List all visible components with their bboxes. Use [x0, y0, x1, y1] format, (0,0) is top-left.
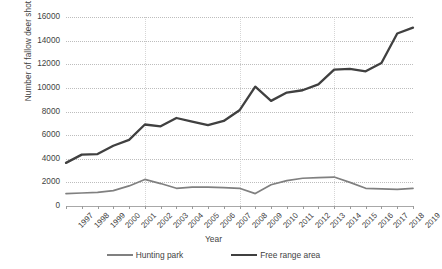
x-axis-tick-label: 2011: [297, 211, 316, 230]
x-axis-tick-mark: [66, 206, 67, 209]
x-axis-tick-mark: [82, 206, 83, 209]
x-axis-tick-label: 2018: [407, 211, 426, 230]
legend-label: Hunting park: [136, 250, 184, 260]
x-axis-tick-label: 2017: [392, 211, 411, 230]
y-axis-tick-label: 10000: [20, 84, 60, 92]
y-axis-tick-label: 16000: [20, 13, 60, 21]
x-axis-tick-label: 2005: [202, 211, 221, 230]
x-axis-tick-mark: [381, 206, 382, 209]
legend-line-icon: [231, 254, 257, 256]
chart-legend: Hunting park Free range area: [0, 248, 427, 262]
x-axis-tick-label: 2001: [139, 211, 158, 230]
y-axis-tick-labels: 1600014000120001000080006000400020000: [20, 0, 60, 269]
legend-item-hunting-park[interactable]: Hunting park: [107, 250, 184, 260]
legend-line-icon: [107, 254, 133, 256]
x-axis-tick-mark: [334, 206, 335, 209]
x-axis-tick-mark: [98, 206, 99, 209]
x-axis-tick-label: 2012: [313, 211, 332, 230]
x-axis-tick-mark: [192, 206, 193, 209]
y-axis-tick-label: 8000: [20, 108, 60, 116]
y-axis-tick-label: 2000: [20, 178, 60, 186]
legend-item-free-range-area[interactable]: Free range area: [231, 250, 320, 260]
legend-label: Free range area: [260, 250, 320, 260]
x-axis-tick-mark: [271, 206, 272, 209]
x-axis-title: Year: [0, 234, 427, 244]
x-axis-tick-label: 2016: [376, 211, 395, 230]
x-axis-tick-label: 2000: [124, 211, 143, 230]
x-axis-tick-label: 2004: [187, 211, 206, 230]
x-axis-tick-label: 2008: [250, 211, 269, 230]
x-axis-tick-mark: [318, 206, 319, 209]
x-axis-tick-label: 2015: [360, 211, 379, 230]
x-axis-tick-mark: [413, 206, 414, 209]
x-axis-tick-mark: [145, 206, 146, 209]
plot-area: [66, 17, 413, 206]
x-axis-tick-mark: [397, 206, 398, 209]
x-axis-tick-label: 2009: [265, 211, 284, 230]
x-axis-tick-mark: [255, 206, 256, 209]
x-axis-tick-mark: [366, 206, 367, 209]
x-axis-tick-mark: [350, 206, 351, 209]
x-axis-tick-label: 2013: [329, 211, 348, 230]
x-axis-tick-mark: [129, 206, 130, 209]
x-axis-tick-label: 2002: [155, 211, 174, 230]
x-axis-tick-label: 2014: [344, 211, 363, 230]
y-axis-tick-label: 6000: [20, 131, 60, 139]
series-lines: [66, 17, 413, 206]
series-line: [66, 177, 413, 194]
x-axis-tick-label: 1997: [76, 211, 95, 230]
y-axis-tick-label: 14000: [20, 37, 60, 45]
x-axis-tick-label: 2019: [423, 211, 442, 230]
x-axis-tick-mark: [208, 206, 209, 209]
x-axis-tick-label: 2003: [171, 211, 190, 230]
x-axis-tick-label: 2007: [234, 211, 253, 230]
x-axis-tick-mark: [303, 206, 304, 209]
y-axis-tick-label: 4000: [20, 155, 60, 163]
x-axis-tick-mark: [161, 206, 162, 209]
y-axis-tick-label: 0: [20, 202, 60, 210]
x-axis-tick-mark: [176, 206, 177, 209]
series-line: [66, 28, 413, 163]
x-axis-tick-mark: [224, 206, 225, 209]
x-axis-tick-mark: [240, 206, 241, 209]
y-axis-tick-label: 12000: [20, 60, 60, 68]
x-axis-tick-labels: 1997199819992000200120022003200420052006…: [66, 206, 413, 214]
x-axis-tick-label: 2010: [281, 211, 300, 230]
x-axis-tick-label: 1998: [92, 211, 111, 230]
x-axis-tick-label: 2006: [218, 211, 237, 230]
x-axis-tick-mark: [113, 206, 114, 209]
x-axis-tick-mark: [287, 206, 288, 209]
x-axis-tick-label: 1999: [108, 211, 127, 230]
